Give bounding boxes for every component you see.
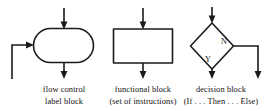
caption-flow-control-line2: label block xyxy=(45,97,84,106)
decision-branch-no-label: N xyxy=(221,37,227,46)
caption-functional-block: functional block (set of instructions) xyxy=(109,85,176,106)
caption-flow-control-line1: flow control xyxy=(43,85,86,94)
caption-decision-line2: (If . . . Then . . . Else) xyxy=(184,97,259,106)
decision-diamond-shape xyxy=(191,23,234,69)
functional-block-group xyxy=(114,8,173,79)
decision-top-input-arrow xyxy=(209,7,216,24)
functional-rectangle-shape xyxy=(114,29,173,63)
functional-bottom-output-arrow xyxy=(140,63,147,79)
decision-yes-output-arrow xyxy=(209,69,216,79)
caption-flow-control-block: flow control label block xyxy=(43,85,86,106)
decision-no-output-arrow xyxy=(233,46,261,79)
flow-control-block-group xyxy=(12,8,94,79)
decision-block-group: N Y xyxy=(191,7,262,79)
flowchart-legend-diagram: N Y flow control label block functional … xyxy=(0,0,277,111)
flow-control-top-input-arrow xyxy=(61,8,68,30)
flow-control-bottom-output-arrow xyxy=(61,62,68,79)
caption-decision-block: decision block (If . . . Then . . . Else… xyxy=(184,85,259,106)
flowchart-canvas: N Y flow control label block functional … xyxy=(0,0,277,111)
flow-control-left-loop-arrow xyxy=(12,42,34,79)
decision-branch-yes-label: Y xyxy=(205,55,211,64)
flow-control-stadium-shape xyxy=(34,29,94,63)
functional-top-input-arrow xyxy=(140,8,147,30)
caption-functional-line2: (set of instructions) xyxy=(109,97,176,106)
caption-decision-line1: decision block xyxy=(196,85,247,94)
caption-functional-line1: functional block xyxy=(115,85,172,94)
